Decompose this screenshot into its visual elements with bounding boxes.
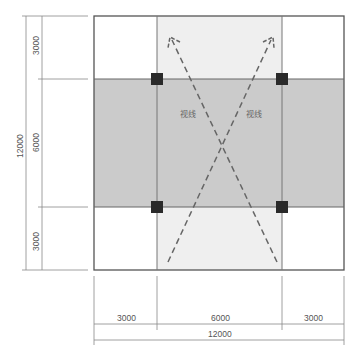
dim-left-middle: 6000 — [31, 133, 41, 152]
column-bottom-left — [151, 201, 163, 213]
column-top-left — [151, 73, 163, 85]
sightline-label-right: 视线 — [246, 109, 262, 119]
dim-bottom-left: 3000 — [117, 313, 136, 323]
dim-bottom-total: 12000 — [208, 329, 232, 339]
dim-left-bottom: 3000 — [31, 232, 41, 251]
horizontal-band — [94, 79, 344, 207]
column-top-right — [276, 73, 288, 85]
column-bottom-right — [276, 201, 288, 213]
dim-left-total: 12000 — [15, 134, 25, 158]
sightline-label-left: 视线 — [180, 109, 196, 119]
plan-diagram: 视线 视线 3000 6000 3000 12000 3000 6000 300… — [0, 0, 356, 354]
dim-bottom-right: 3000 — [304, 313, 323, 323]
dim-bottom-middle: 6000 — [211, 313, 230, 323]
dim-left-top: 3000 — [31, 36, 41, 55]
